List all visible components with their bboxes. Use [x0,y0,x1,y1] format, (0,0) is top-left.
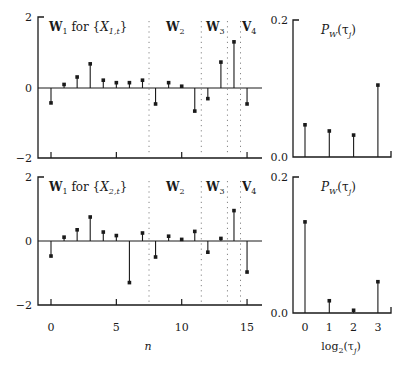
stem-marker [62,235,66,239]
stem-marker [88,215,92,219]
section-label-w2: W2 [165,180,185,196]
top-right-panel: 0.20.0PW(τj) [271,14,392,164]
stem-marker [232,40,236,44]
stem-marker [193,230,197,234]
x-tick-label: 10 [175,321,189,334]
stem-marker [376,83,380,87]
top-left-panel: 20−2W1 for {X1,t}W2W3V4 [16,11,262,165]
section-label-w3: W3 [205,20,225,36]
stem-marker [75,228,79,232]
x-tick-label: 2 [350,321,357,334]
stem-marker [206,97,210,101]
stem-marker [376,280,380,284]
stem-marker [49,101,53,105]
axis-frame [293,20,391,157]
stem-marker [167,234,171,238]
x-tick-label: 15 [240,321,254,334]
x-tick-label: 0 [302,321,309,334]
x-axis-label-n: n [144,340,151,353]
y-tick-label: −2 [16,299,32,312]
x-axis-label-log2-tau: log2(τj) [321,340,360,355]
panel-title-pw: PW(τj) [320,180,356,196]
bottom-right-panel: 0.20.0PW(τj) [271,171,392,320]
y-tick-label: 0 [25,235,32,248]
stem-marker [303,220,307,224]
stem-marker [206,250,210,254]
stem-marker [115,234,119,238]
stem-marker [141,78,145,82]
x-tick-label: 3 [374,321,381,334]
section-label-v4: V4 [241,180,256,196]
y-tick-label: 2 [25,11,32,24]
stem-marker [245,270,249,274]
x-tick-label: 5 [113,321,120,334]
stem-marker [193,109,197,113]
stem-marker [128,281,132,285]
stem-marker [303,123,307,127]
stem-marker [245,102,249,106]
stem-marker [328,299,332,303]
y-tick-label: 0.2 [271,14,289,27]
section-label-v4: V4 [241,20,256,36]
stem-marker [88,62,92,66]
stem-marker [154,255,158,259]
stem-marker [219,237,223,241]
stem-marker [167,81,171,85]
y-tick-label: 0.0 [271,151,289,164]
stem-marker [115,81,119,85]
bottom-left-panel: 20−2W1 for {X2,t}W2W3V4 [16,171,262,312]
y-tick-label: 0 [25,82,32,95]
stem-marker [180,238,184,242]
figure: 20−2W1 for {X1,t}W2W3V420−2W1 for {X2,t}… [0,0,406,370]
x-tick-label: 0 [48,321,55,334]
stem-marker [219,60,223,64]
stem-marker [328,129,332,133]
stem-marker [352,133,356,137]
stem-marker [154,102,158,106]
stem-marker [232,209,236,213]
stem-marker [180,84,184,88]
axis-frame [293,177,391,313]
stem-marker [75,75,79,79]
section-label-w3: W3 [205,180,225,196]
stem-marker [352,308,356,312]
y-tick-label: 0.2 [271,171,289,184]
section-label-w2: W2 [165,20,185,36]
stem-marker [49,254,53,258]
panel-title-pw: PW(τj) [320,23,356,39]
stem-marker [128,81,132,85]
y-tick-label: 2 [25,171,32,184]
y-tick-label: −2 [16,152,32,165]
stem-marker [141,231,145,235]
stem-marker [101,230,105,234]
y-tick-label: 0.0 [271,307,289,320]
stem-marker [62,83,66,87]
stem-marker [101,78,105,82]
panel-title-w1: W1 for {X2,t} [48,180,127,196]
x-tick-label: 1 [326,321,333,334]
panel-title-w1: W1 for {X1,t} [48,20,127,36]
